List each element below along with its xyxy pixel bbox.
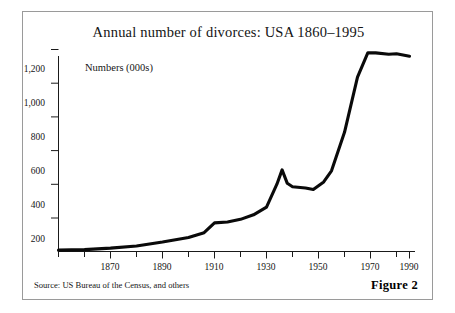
divorce-trend-line: [59, 53, 410, 250]
x-tick-label: 1970: [350, 262, 390, 272]
x-tick-label: 1930: [246, 262, 286, 272]
x-tick-label: 1990: [389, 262, 429, 272]
y-tick-label: 1,000: [7, 98, 45, 108]
y-tick-label: 800: [7, 132, 45, 142]
chart-plot-area: [23, 12, 434, 301]
figure-frame: Annual number of divorces: USA 1860–1995…: [22, 11, 433, 300]
y-tick-label: 1,200: [7, 64, 45, 74]
x-tick-label: 1870: [90, 262, 130, 272]
y-tick-label: 200: [7, 234, 45, 244]
x-tick-label: 1910: [194, 262, 234, 272]
y-tick-label: 600: [7, 166, 45, 176]
x-axis-ticks: [59, 252, 410, 259]
x-tick-label: 1950: [298, 262, 338, 272]
source-note: Source: US Bureau of the Census, and oth…: [34, 280, 189, 290]
x-tick-label: 1890: [142, 262, 182, 272]
figure-number: Figure 2: [371, 278, 418, 293]
y-tick-label: 400: [7, 200, 45, 210]
y-axis-ticks: [51, 50, 59, 219]
